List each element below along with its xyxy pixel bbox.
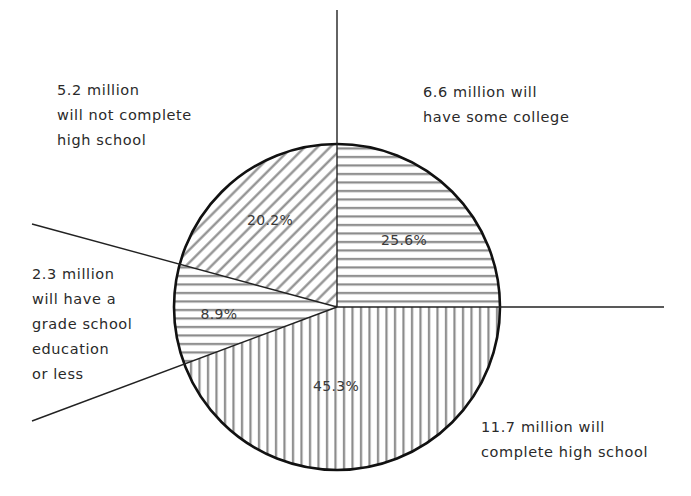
callout-grade-school: 2.3 million will have a grade school edu… xyxy=(32,262,132,387)
callout-line: 5.2 million xyxy=(57,78,192,103)
callout-line: will not complete xyxy=(57,103,192,128)
callout-line: have some college xyxy=(423,105,569,130)
pct-label-grade-school: 8.9% xyxy=(201,306,238,322)
callout-line: high school xyxy=(57,128,192,153)
callout-line: education xyxy=(32,337,132,362)
pct-label-some-college: 25.6% xyxy=(381,232,427,248)
callout-line: or less xyxy=(32,362,132,387)
callout-line: 11.7 million will xyxy=(481,415,648,440)
slice-some-college xyxy=(337,144,500,307)
pie-chart: 20.2% 25.6% 8.9% 45.3% 5.2 million will … xyxy=(0,0,691,496)
pct-label-complete-hs: 45.3% xyxy=(313,378,359,394)
pct-label-not-complete-hs: 20.2% xyxy=(247,212,293,228)
callout-line: complete high school xyxy=(481,440,648,465)
callout-line: grade school xyxy=(32,312,132,337)
callout-line: 2.3 million xyxy=(32,262,132,287)
callout-not-complete-hs: 5.2 million will not complete high schoo… xyxy=(57,78,192,153)
callout-some-college: 6.6 million will have some college xyxy=(423,80,569,130)
callout-complete-hs: 11.7 million will complete high school xyxy=(481,415,648,465)
callout-line: 6.6 million will xyxy=(423,80,569,105)
callout-line: will have a xyxy=(32,287,132,312)
